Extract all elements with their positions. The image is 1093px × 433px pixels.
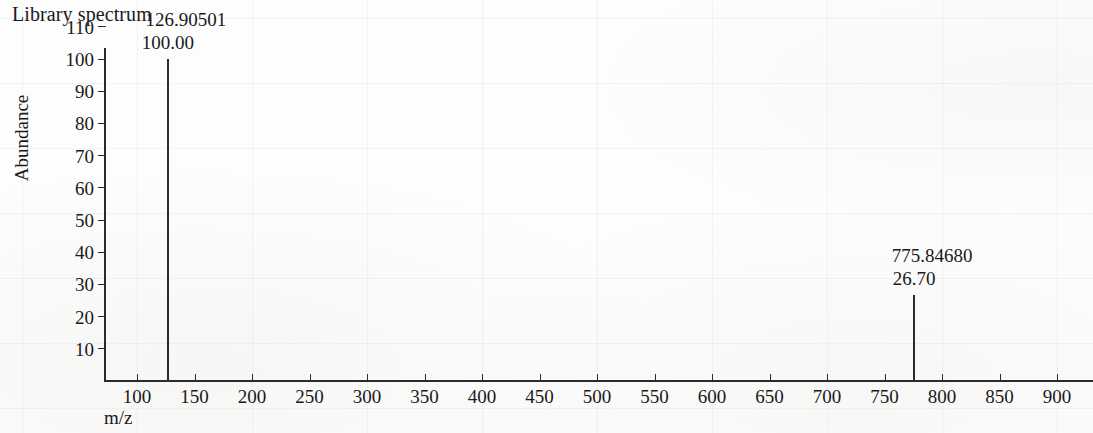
x-axis-tick	[540, 374, 541, 382]
y-axis-tick	[98, 59, 106, 60]
y-axis-tick	[98, 348, 106, 349]
y-axis-tick	[98, 252, 106, 253]
peak-abundance-label: 100.00	[108, 32, 228, 54]
y-axis-tick-label: 100	[50, 50, 94, 69]
y-axis-tick-label: 40	[50, 243, 94, 262]
y-axis-tick	[98, 26, 106, 27]
peak-mz-label: 126.90501	[126, 9, 246, 31]
x-axis-tick	[597, 374, 598, 382]
y-axis-tick-label: 30	[50, 275, 94, 294]
y-axis-tick	[98, 123, 106, 124]
y-axis-tick-label: 10	[50, 340, 94, 359]
x-axis-tick	[252, 374, 253, 382]
x-axis-tick	[195, 374, 196, 382]
x-axis-tick	[482, 374, 483, 382]
x-axis-tick	[1000, 374, 1001, 382]
x-axis-tick	[770, 374, 771, 382]
y-axis-line	[104, 48, 106, 382]
x-axis-tick	[425, 374, 426, 382]
background-gridlines	[0, 0, 1093, 433]
y-axis-tick-label: 110	[50, 18, 94, 37]
y-axis-tick-label: 90	[50, 82, 94, 101]
x-axis-tick	[310, 374, 311, 382]
y-axis-tick	[98, 316, 106, 317]
x-axis-tick	[137, 374, 138, 382]
peak-line	[913, 295, 915, 381]
x-axis-tick	[1057, 374, 1058, 382]
x-axis-tick	[827, 374, 828, 382]
y-axis-tick-label: 20	[50, 308, 94, 327]
peak-abundance-label: 26.70	[854, 268, 974, 290]
y-axis-tick-label: 70	[50, 147, 94, 166]
y-axis-tick	[98, 187, 106, 188]
y-axis-tick-label: 80	[50, 114, 94, 133]
y-axis-title: Abundance	[12, 78, 32, 198]
x-axis-tick	[712, 374, 713, 382]
y-axis-tick	[98, 284, 106, 285]
x-axis-tick	[942, 374, 943, 382]
y-axis-tick-label: 60	[50, 179, 94, 198]
paper-background-tint	[0, 0, 1093, 433]
x-axis-tick-label: 900	[1022, 386, 1092, 408]
peak-line	[167, 59, 169, 381]
y-axis-tick	[98, 91, 106, 92]
x-axis-title: m/z	[104, 408, 133, 428]
y-axis-tick	[98, 220, 106, 221]
y-axis-tick-label: 50	[50, 211, 94, 230]
y-axis-tick	[98, 155, 106, 156]
x-axis-tick	[885, 374, 886, 382]
x-axis-tick	[655, 374, 656, 382]
peak-mz-label: 775.84680	[872, 245, 992, 267]
x-axis-tick	[367, 374, 368, 382]
